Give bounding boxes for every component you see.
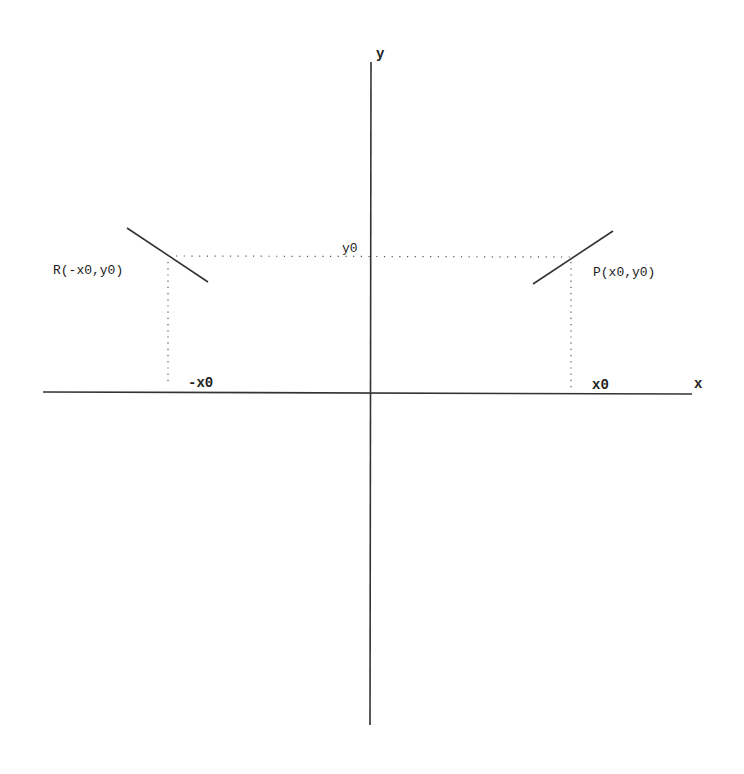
point-r-label: R(-x0,y0) (53, 263, 123, 278)
x0-tick-label: x0 (592, 377, 609, 393)
x-axis-label: x (694, 376, 703, 392)
neg-x0-tick-label: -x0 (188, 375, 213, 391)
r-segment (127, 228, 208, 282)
y-axis (370, 62, 371, 725)
y-axis-label: y (376, 46, 385, 62)
y0-tick-label: y0 (342, 241, 358, 256)
coordinate-diagram: y x y0 -x0 x0 R(-x0,y0) P(x0,y0) (0, 0, 744, 774)
y0-guide-line (176, 256, 570, 257)
point-p-label: P(x0,y0) (593, 265, 655, 280)
